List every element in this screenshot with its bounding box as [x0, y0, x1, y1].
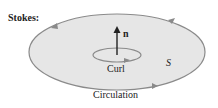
circulation-label: Circulation	[93, 89, 138, 100]
stokes-diagram: Stokes: n Curl S Circulation	[0, 0, 218, 108]
surface-label: S	[166, 57, 171, 68]
curl-label: Curl	[107, 63, 125, 74]
normal-vector-label: n	[123, 28, 129, 39]
diagram-title: Stokes:	[8, 12, 39, 23]
